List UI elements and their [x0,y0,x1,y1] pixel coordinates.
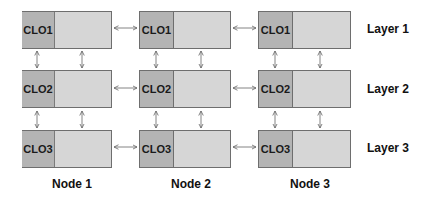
node-1-label: Node 1 [52,177,92,191]
node-2-label: Node 2 [171,177,211,191]
layer-2-label: Layer 2 [367,82,409,96]
node-layer-diagram: CLO1 CLO1 CLO1 CLO2 CLO2 CLO2 CLO3 CLO3 … [0,0,433,198]
layer-1-label: Layer 1 [367,22,409,36]
node-3-label: Node 3 [290,177,330,191]
layer-3-label: Layer 3 [367,141,409,155]
